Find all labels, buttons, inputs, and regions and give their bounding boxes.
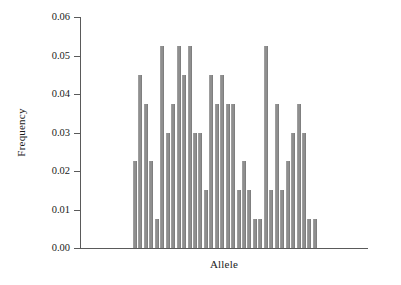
bar — [138, 75, 142, 248]
bar — [247, 190, 251, 248]
bar — [198, 133, 202, 249]
bar — [231, 104, 235, 248]
bar — [291, 133, 295, 249]
bar — [275, 104, 279, 248]
bar — [302, 133, 306, 249]
bar — [313, 219, 317, 248]
x-axis-line — [80, 248, 368, 249]
y-tick-label: 0.02 — [30, 166, 70, 176]
bar — [144, 104, 148, 248]
y-tick-mark — [74, 248, 80, 249]
bar — [258, 219, 262, 248]
y-tick-mark — [74, 17, 80, 18]
bar — [204, 190, 208, 248]
bar — [149, 161, 153, 248]
bar — [297, 104, 301, 248]
bar — [177, 46, 181, 248]
bar — [155, 219, 159, 248]
bar-series — [81, 17, 368, 248]
y-tick-mark — [74, 56, 80, 57]
bar — [209, 75, 213, 248]
bar — [286, 161, 290, 248]
bar — [242, 161, 246, 248]
bar — [160, 46, 164, 248]
bar — [171, 104, 175, 248]
y-tick-label: 0.01 — [30, 205, 70, 215]
y-tick-label: 0.06 — [30, 12, 70, 22]
bar — [253, 219, 257, 248]
bar — [264, 46, 268, 248]
bar — [220, 75, 224, 248]
y-tick-label: 0.03 — [30, 128, 70, 138]
bar — [215, 104, 219, 248]
y-tick-mark — [74, 133, 80, 134]
bar — [269, 190, 273, 248]
plot-area — [81, 17, 368, 248]
y-tick-label: 0.05 — [30, 51, 70, 61]
y-axis-label: Frequency — [14, 17, 28, 248]
bar — [133, 161, 137, 248]
bar — [237, 190, 241, 248]
frequency-bar-chart: Frequency 0.000.010.020.030.040.050.06 A… — [0, 0, 401, 285]
y-tick-mark — [74, 171, 80, 172]
bar — [166, 133, 170, 249]
y-tick-label: 0.04 — [30, 89, 70, 99]
bar — [188, 46, 192, 248]
bar — [307, 219, 311, 248]
bar — [193, 133, 197, 249]
y-tick-label: 0.00 — [30, 243, 70, 253]
bar — [226, 104, 230, 248]
y-tick-mark — [74, 210, 80, 211]
bar — [182, 75, 186, 248]
x-axis-label: Allele — [80, 257, 368, 271]
bar — [280, 190, 284, 248]
y-tick-mark — [74, 94, 80, 95]
